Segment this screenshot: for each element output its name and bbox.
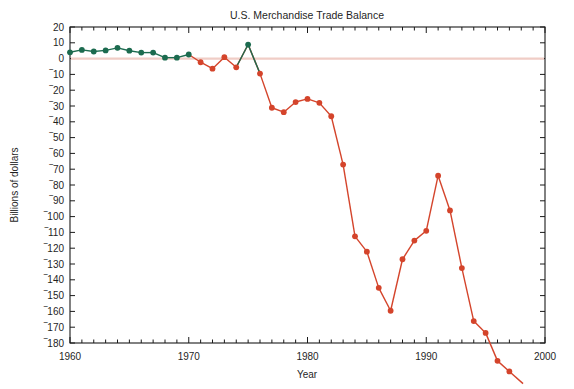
data-point-marker <box>328 113 334 119</box>
y-axis-tick-label: ‾20 <box>49 85 65 96</box>
data-point-marker <box>423 228 429 234</box>
x-axis-tick-label: 1970 <box>178 351 201 362</box>
x-axis-label: Year <box>297 369 318 380</box>
data-point-marker <box>388 308 394 314</box>
data-point-marker <box>352 233 358 239</box>
data-point-marker <box>257 71 263 77</box>
data-point-marker <box>162 55 168 61</box>
y-axis-tick-label: ‾130 <box>43 259 64 270</box>
data-point-marker <box>483 330 489 336</box>
data-point-marker <box>364 249 370 255</box>
data-point-marker <box>138 50 144 56</box>
y-axis-tick-label: 20 <box>53 22 65 33</box>
y-axis-tick-label: ‾90 <box>49 195 65 206</box>
y-axis-tick-label: ‾10 <box>49 69 65 80</box>
data-point-marker <box>281 109 287 115</box>
data-point-marker <box>340 162 346 168</box>
y-axis-tick-label: ‾70 <box>49 164 65 175</box>
y-axis-tick-label: ‾150 <box>43 290 64 301</box>
y-axis-minor-tick-group <box>540 27 545 343</box>
y-axis-tick-label: ‾120 <box>43 243 64 254</box>
y-axis-tick-label: ‾140 <box>43 274 64 285</box>
x-axis-tick-label: 1990 <box>415 351 438 362</box>
data-point-marker <box>316 100 322 106</box>
data-point-marker <box>411 238 417 244</box>
y-axis-label: Billions of dollars <box>9 147 20 222</box>
data-point-marker <box>495 358 501 364</box>
data-point-marker <box>115 45 121 51</box>
y-axis-tick-label: ‾170 <box>43 322 64 333</box>
y-axis-tick-label: ‾40 <box>49 116 65 127</box>
data-point-marker <box>269 105 275 111</box>
data-point-marker <box>186 52 192 58</box>
y-axis-tick-label: 0 <box>58 53 64 64</box>
data-point-marker <box>245 42 251 48</box>
data-point-marker <box>126 48 132 54</box>
data-point-marker <box>233 64 239 70</box>
y-axis-tick-label: ‾60 <box>49 148 65 159</box>
data-point-marker <box>471 318 477 324</box>
y-axis-tick-label: ‾80 <box>49 180 65 191</box>
data-point-marker <box>435 173 441 179</box>
data-point-marker <box>447 208 453 214</box>
y-axis-tick-label: ‾100 <box>43 211 64 222</box>
data-point-marker <box>210 66 216 72</box>
trade-balance-line-chart: U.S. Merchandise Trade Balance 20100‾10‾… <box>0 0 574 389</box>
data-point-marker <box>91 49 97 55</box>
data-point-marker <box>67 49 73 55</box>
data-point-marker <box>150 50 156 56</box>
data-point-marker <box>79 47 85 53</box>
y-axis-tick-label: ‾160 <box>43 306 64 317</box>
y-axis-tick-label: ‾110 <box>44 227 65 238</box>
y-axis-tick-label: 10 <box>53 37 65 48</box>
data-point-marker <box>174 55 180 61</box>
data-point-marker <box>400 256 406 262</box>
data-point-marker <box>198 59 204 65</box>
y-axis-tick-label: ‾180 <box>43 338 64 349</box>
data-point-marker <box>376 285 382 291</box>
x-axis-tick-label: 2000 <box>534 351 557 362</box>
x-axis-tick-label: 1960 <box>59 351 82 362</box>
data-point-marker <box>221 54 227 60</box>
data-point-marker <box>103 47 109 53</box>
chart-container: U.S. Merchandise Trade Balance 20100‾10‾… <box>0 0 574 389</box>
data-point-marker <box>293 99 299 105</box>
data-point-marker <box>305 96 311 102</box>
x-axis-tick-label: 1980 <box>296 351 319 362</box>
chart-title: U.S. Merchandise Trade Balance <box>230 9 384 21</box>
data-point-marker <box>459 265 465 271</box>
data-point-marker <box>506 369 512 375</box>
y-axis-tick-label: ‾30 <box>49 101 65 112</box>
y-axis-tick-label: ‾50 <box>49 132 65 143</box>
